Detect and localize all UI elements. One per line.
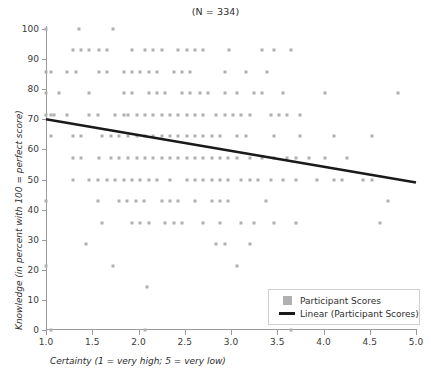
x-axis-tick (277, 330, 278, 335)
y-axis-tick-label: 0 (33, 325, 39, 335)
plot-area: 0102030405060708090100 1.01.52.02.53.03.… (46, 29, 416, 330)
x-axis-tick-label: 2.5 (178, 337, 192, 347)
plot-surface: 0102030405060708090100 1.01.52.02.53.03.… (46, 29, 416, 330)
legend: Participant Scores Linear (Participant S… (268, 289, 420, 325)
trend-line (46, 29, 416, 330)
x-axis-tick-label: 5.0 (409, 337, 423, 347)
y-axis-tick-label: 20 (28, 265, 39, 275)
x-axis-tick (92, 330, 93, 335)
x-axis-tick-label: 1.5 (85, 337, 99, 347)
x-axis-tick-label: 3.0 (224, 337, 238, 347)
y-axis-tick-label: 70 (28, 114, 39, 124)
x-axis-tick-label: 3.5 (270, 337, 284, 347)
x-axis-tick-label: 4.0 (316, 337, 330, 347)
y-axis-tick-label: 60 (28, 144, 39, 154)
x-axis-tick (46, 330, 47, 335)
legend-square-marker-icon (274, 296, 300, 305)
y-axis-tick-label: 30 (28, 235, 39, 245)
legend-line-marker-icon (274, 312, 300, 315)
x-axis-tick (370, 330, 371, 335)
legend-item-participant-scores[interactable]: Participant Scores (274, 294, 414, 307)
y-axis-tick-label: 90 (28, 54, 39, 64)
x-axis-tick-label: 1.0 (39, 337, 53, 347)
legend-label-participant-scores: Participant Scores (300, 296, 381, 306)
y-axis-title: Knowledge (in percent with 100 = perfect… (14, 29, 28, 330)
x-axis-tick (416, 330, 417, 335)
x-axis-title: Certainty (1 = very high; 5 = very low) (50, 356, 226, 366)
x-axis-tick (231, 330, 232, 335)
x-axis-tick (185, 330, 186, 335)
legend-label-linear-fit: Linear (Participant Scores) (300, 309, 419, 319)
y-axis-tick-label: 10 (28, 295, 39, 305)
x-axis-tick-label: 2.0 (131, 337, 145, 347)
x-axis-tick-label: 4.5 (363, 337, 377, 347)
scatter-plot-figure: (N = 334) 0102030405060708090100 1.01.52… (0, 0, 431, 380)
y-axis-tick-label: 40 (28, 205, 39, 215)
y-axis-tick-label: 50 (28, 175, 39, 185)
x-axis-tick (324, 330, 325, 335)
chart-title: (N = 334) (0, 6, 431, 17)
x-axis-tick (139, 330, 140, 335)
legend-item-linear-fit[interactable]: Linear (Participant Scores) (274, 307, 414, 320)
y-axis-tick-label: 80 (28, 84, 39, 94)
